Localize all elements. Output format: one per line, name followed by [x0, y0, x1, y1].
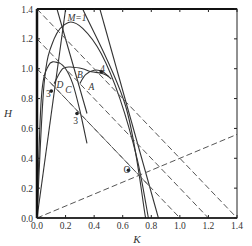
x-tick-label: 1.0	[174, 221, 186, 231]
series-line-12	[51, 84, 151, 189]
y-tick-label: 0.2	[21, 184, 33, 194]
plot-area	[37, 9, 237, 218]
annotation-label: B	[77, 70, 83, 80]
y-tick-label: 1.2	[21, 34, 33, 44]
series-line-8	[37, 134, 237, 218]
x-tick-label: 1.2	[202, 221, 214, 231]
y-tick-label: 0.8	[21, 94, 33, 104]
phase-diagram: 0.00.20.40.60.81.01.21.4 0.00.20.40.60.8…	[0, 0, 252, 246]
series-line-9	[37, 9, 237, 218]
y-tick-label: 0.6	[21, 124, 33, 134]
x-tick-label: 0.6	[117, 221, 129, 231]
y-tick-label: 0.4	[21, 154, 33, 164]
annotation-label: O	[124, 165, 131, 175]
y-tick-label: 1.0	[21, 64, 33, 74]
annotation-label: 3	[73, 116, 78, 126]
y-tick-label: 0.0	[21, 214, 33, 224]
annotation-label: D	[55, 80, 63, 90]
series-line-4	[37, 9, 66, 218]
x-tick-label: 0.4	[88, 221, 100, 231]
x-tick-label: 0.2	[60, 221, 72, 231]
x-tick-label: 1.4	[231, 221, 243, 231]
x-axis-label: K	[132, 233, 141, 245]
series-line-10	[37, 39, 208, 218]
annotation-label: A	[87, 82, 94, 92]
y-axis-label: H	[3, 107, 13, 119]
chart-container: 0.00.20.40.60.81.01.21.4 0.00.20.40.60.8…	[0, 0, 252, 246]
y-tick-label: 1.4	[21, 5, 33, 15]
series-line-5	[57, 9, 87, 114]
annotation-label: 4	[100, 64, 105, 74]
series-line-6	[83, 9, 146, 218]
annotation-label: C	[65, 85, 72, 95]
annotation-label: M=1	[66, 13, 86, 23]
series-line-0	[37, 22, 148, 218]
marker-point-3	[75, 112, 79, 116]
x-tick-label: 0.8	[145, 221, 157, 231]
x-axis-ticks: 0.00.20.40.60.81.01.21.4	[31, 9, 243, 231]
annotation-label: 3	[46, 89, 51, 99]
